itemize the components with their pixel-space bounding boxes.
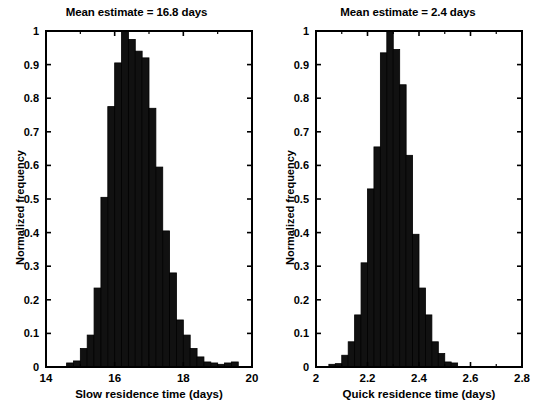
histogram-bar	[197, 357, 204, 367]
histogram-bar	[406, 155, 412, 367]
histogram-bar	[432, 342, 438, 367]
histogram-bar	[419, 288, 425, 367]
y-tick-label: 0.9	[294, 59, 309, 71]
x-axis-label-right: Quick residence time (days)	[316, 388, 522, 400]
x-tick-label: 2.4	[411, 372, 428, 384]
y-tick-label: 0.8	[24, 92, 39, 104]
histogram-bar	[400, 85, 406, 367]
histogram-bar	[190, 349, 197, 367]
y-tick-label: 0.2	[24, 294, 39, 306]
x-tick-label: 14	[40, 372, 53, 384]
histogram-bar	[380, 53, 386, 367]
histogram-bar	[115, 63, 122, 367]
y-tick-label: 1	[303, 25, 309, 37]
panel-slow-residence-time: Mean estimate = 16.8 days 00.10.20.30.40…	[0, 0, 273, 408]
y-tick-label: 0.1	[294, 327, 309, 339]
x-axis-label-left: Slow residence time (days)	[46, 388, 252, 400]
histogram-bar	[374, 147, 380, 367]
histogram-bar	[176, 320, 183, 367]
y-tick-label: 0.1	[24, 327, 39, 339]
y-tick-label: 1	[33, 25, 39, 37]
histogram-bar	[156, 167, 163, 367]
histogram-bar	[108, 107, 115, 367]
y-tick-label: 0.8	[294, 92, 309, 104]
histogram-bars	[67, 31, 239, 367]
histogram-bar	[413, 234, 419, 367]
y-tick-label: 0.4	[24, 227, 40, 239]
x-tick-label: 2.2	[360, 372, 376, 384]
x-tick-label: 18	[177, 372, 190, 384]
x-tick-label: 2.8	[514, 372, 531, 384]
histogram-bar	[425, 315, 431, 367]
histogram-bar	[149, 108, 156, 367]
x-tick-label: 2	[313, 372, 319, 384]
x-tick-label: 2.6	[463, 372, 479, 384]
histogram-bar	[183, 335, 190, 367]
histogram-bar	[80, 349, 87, 367]
y-tick-label: 0.2	[294, 294, 309, 306]
histogram-bar	[393, 49, 399, 367]
histogram-bar	[342, 355, 348, 367]
y-tick-label: 0	[33, 361, 39, 373]
histogram-bar	[101, 197, 108, 367]
figure-two-histograms: Mean estimate = 16.8 days 00.10.20.30.40…	[0, 0, 546, 408]
y-tick-label: 0.9	[24, 59, 39, 71]
histogram-bar	[87, 335, 94, 367]
histogram-bar	[142, 58, 149, 367]
y-tick-label: 0.4	[294, 227, 310, 239]
histogram-bar	[368, 189, 374, 367]
histogram-bar	[355, 315, 361, 367]
histogram-bar	[387, 31, 393, 367]
histogram-bar	[122, 31, 129, 367]
panel-quick-residence-time: Mean estimate = 2.4 days 00.10.20.30.40.…	[273, 0, 546, 408]
histogram-bar	[135, 51, 142, 367]
histogram-bar	[348, 342, 354, 367]
y-axis-label-right: Normalized frequency	[284, 150, 296, 265]
histogram-bar	[361, 263, 367, 367]
histogram-bars	[329, 31, 458, 367]
y-tick-label: 0	[303, 361, 309, 373]
histogram-bar	[128, 39, 135, 367]
y-tick-label: 0.7	[24, 126, 39, 138]
x-tick-label: 20	[246, 372, 259, 384]
histogram-bar	[438, 354, 444, 367]
plot-area-left: 00.10.20.30.40.50.60.70.80.9114161820	[0, 0, 273, 408]
y-tick-label: 0.7	[294, 126, 309, 138]
histogram-bar	[170, 273, 177, 367]
histogram-bar	[94, 288, 101, 367]
y-axis-label-left: Normalized frequency	[14, 150, 26, 265]
plot-area-right: 00.10.20.30.40.50.60.70.80.9122.22.42.62…	[273, 0, 546, 408]
x-tick-label: 16	[108, 372, 121, 384]
histogram-bar	[163, 231, 170, 367]
